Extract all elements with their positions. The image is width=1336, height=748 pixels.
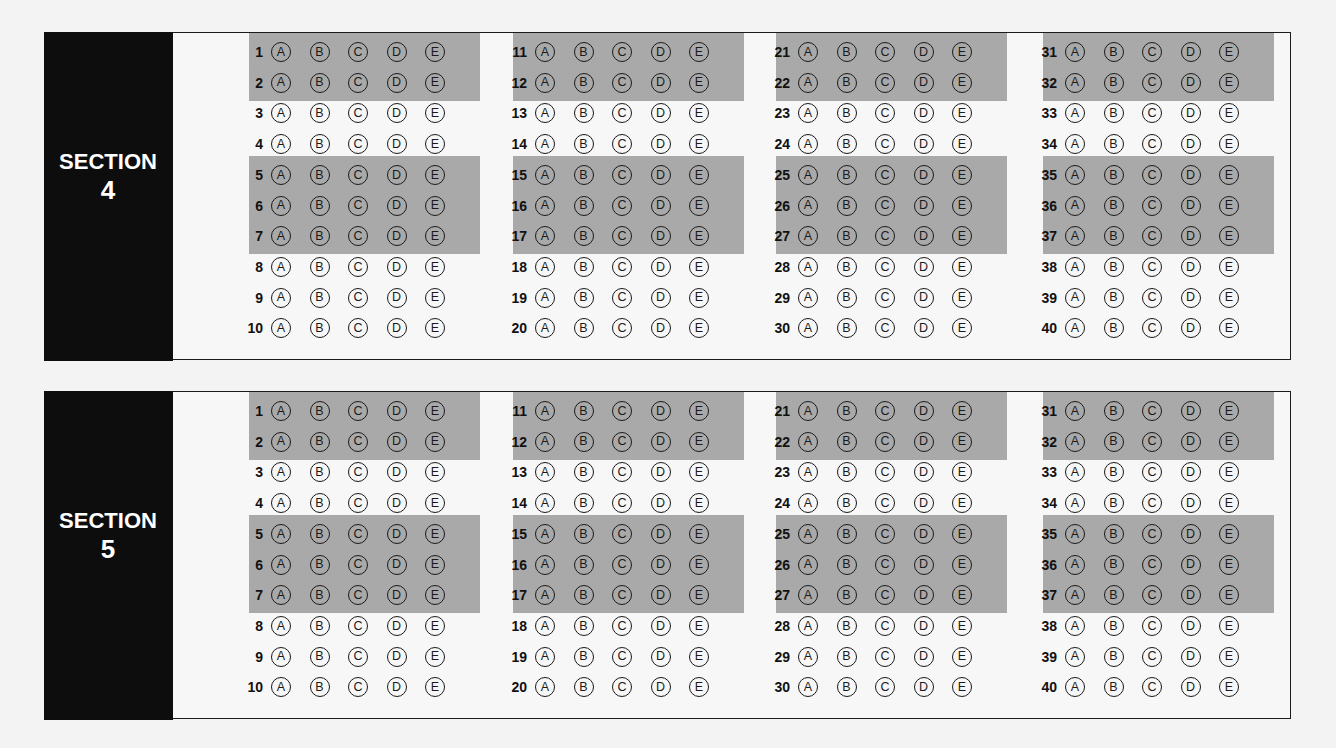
answer-bubble-d[interactable]: D — [1181, 288, 1201, 308]
answer-bubble-c[interactable]: C — [875, 647, 895, 667]
answer-bubble-c[interactable]: C — [1142, 401, 1162, 421]
answer-bubble-c[interactable]: C — [348, 165, 368, 185]
answer-bubble-b[interactable]: B — [1104, 165, 1124, 185]
answer-bubble-d[interactable]: D — [914, 318, 934, 338]
answer-bubble-e[interactable]: E — [689, 555, 709, 575]
answer-bubble-d[interactable]: D — [387, 288, 407, 308]
answer-bubble-a[interactable]: A — [798, 524, 818, 544]
answer-bubble-c[interactable]: C — [875, 165, 895, 185]
answer-bubble-a[interactable]: A — [535, 165, 555, 185]
answer-bubble-b[interactable]: B — [310, 73, 330, 93]
answer-bubble-e[interactable]: E — [1219, 524, 1239, 544]
answer-bubble-e[interactable]: E — [1219, 42, 1239, 62]
answer-bubble-d[interactable]: D — [387, 647, 407, 667]
answer-bubble-e[interactable]: E — [425, 73, 445, 93]
answer-bubble-c[interactable]: C — [875, 196, 895, 216]
answer-bubble-c[interactable]: C — [348, 462, 368, 482]
answer-bubble-c[interactable]: C — [875, 257, 895, 277]
answer-bubble-b[interactable]: B — [1104, 134, 1124, 154]
answer-bubble-e[interactable]: E — [425, 677, 445, 697]
answer-bubble-e[interactable]: E — [1219, 677, 1239, 697]
answer-bubble-b[interactable]: B — [837, 288, 857, 308]
answer-bubble-c[interactable]: C — [348, 585, 368, 605]
answer-bubble-a[interactable]: A — [1065, 647, 1085, 667]
answer-bubble-a[interactable]: A — [1065, 677, 1085, 697]
answer-bubble-d[interactable]: D — [914, 288, 934, 308]
answer-bubble-a[interactable]: A — [1065, 616, 1085, 636]
answer-bubble-b[interactable]: B — [310, 318, 330, 338]
answer-bubble-d[interactable]: D — [387, 555, 407, 575]
answer-bubble-e[interactable]: E — [425, 288, 445, 308]
answer-bubble-b[interactable]: B — [837, 226, 857, 246]
answer-bubble-e[interactable]: E — [952, 585, 972, 605]
answer-bubble-c[interactable]: C — [1142, 196, 1162, 216]
answer-bubble-c[interactable]: C — [875, 73, 895, 93]
answer-bubble-e[interactable]: E — [1219, 103, 1239, 123]
answer-bubble-e[interactable]: E — [1219, 616, 1239, 636]
answer-bubble-e[interactable]: E — [952, 288, 972, 308]
answer-bubble-c[interactable]: C — [348, 677, 368, 697]
answer-bubble-b[interactable]: B — [574, 42, 594, 62]
answer-bubble-c[interactable]: C — [348, 288, 368, 308]
answer-bubble-b[interactable]: B — [1104, 677, 1124, 697]
answer-bubble-d[interactable]: D — [914, 226, 934, 246]
answer-bubble-e[interactable]: E — [425, 432, 445, 452]
answer-bubble-d[interactable]: D — [914, 401, 934, 421]
answer-bubble-c[interactable]: C — [1142, 555, 1162, 575]
answer-bubble-b[interactable]: B — [837, 524, 857, 544]
answer-bubble-b[interactable]: B — [1104, 401, 1124, 421]
answer-bubble-e[interactable]: E — [425, 555, 445, 575]
answer-bubble-a[interactable]: A — [798, 555, 818, 575]
answer-bubble-b[interactable]: B — [1104, 432, 1124, 452]
answer-bubble-e[interactable]: E — [1219, 647, 1239, 667]
answer-bubble-b[interactable]: B — [1104, 103, 1124, 123]
answer-bubble-c[interactable]: C — [348, 226, 368, 246]
answer-bubble-e[interactable]: E — [1219, 432, 1239, 452]
answer-bubble-c[interactable]: C — [348, 103, 368, 123]
answer-bubble-a[interactable]: A — [798, 616, 818, 636]
answer-bubble-a[interactable]: A — [1065, 73, 1085, 93]
answer-bubble-e[interactable]: E — [1219, 555, 1239, 575]
answer-bubble-e[interactable]: E — [689, 616, 709, 636]
answer-bubble-e[interactable]: E — [689, 585, 709, 605]
answer-bubble-e[interactable]: E — [689, 73, 709, 93]
answer-bubble-e[interactable]: E — [952, 401, 972, 421]
answer-bubble-a[interactable]: A — [1065, 462, 1085, 482]
answer-bubble-b[interactable]: B — [837, 493, 857, 513]
answer-bubble-d[interactable]: D — [651, 288, 671, 308]
answer-bubble-b[interactable]: B — [574, 401, 594, 421]
answer-bubble-b[interactable]: B — [574, 103, 594, 123]
answer-bubble-c[interactable]: C — [875, 677, 895, 697]
answer-bubble-a[interactable]: A — [535, 318, 555, 338]
answer-bubble-e[interactable]: E — [689, 165, 709, 185]
answer-bubble-a[interactable]: A — [798, 196, 818, 216]
answer-bubble-a[interactable]: A — [798, 103, 818, 123]
answer-bubble-e[interactable]: E — [1219, 401, 1239, 421]
answer-bubble-b[interactable]: B — [837, 257, 857, 277]
answer-bubble-c[interactable]: C — [875, 288, 895, 308]
answer-bubble-c[interactable]: C — [348, 616, 368, 636]
answer-bubble-c[interactable]: C — [612, 165, 632, 185]
answer-bubble-b[interactable]: B — [1104, 555, 1124, 575]
answer-bubble-a[interactable]: A — [271, 585, 291, 605]
answer-bubble-b[interactable]: B — [837, 677, 857, 697]
answer-bubble-b[interactable]: B — [574, 493, 594, 513]
answer-bubble-b[interactable]: B — [837, 555, 857, 575]
answer-bubble-b[interactable]: B — [310, 616, 330, 636]
answer-bubble-a[interactable]: A — [535, 134, 555, 154]
answer-bubble-b[interactable]: B — [310, 555, 330, 575]
answer-bubble-e[interactable]: E — [425, 524, 445, 544]
answer-bubble-a[interactable]: A — [271, 493, 291, 513]
answer-bubble-e[interactable]: E — [952, 73, 972, 93]
answer-bubble-c[interactable]: C — [348, 647, 368, 667]
answer-bubble-a[interactable]: A — [271, 555, 291, 575]
answer-bubble-b[interactable]: B — [310, 401, 330, 421]
answer-bubble-b[interactable]: B — [1104, 42, 1124, 62]
answer-bubble-c[interactable]: C — [612, 462, 632, 482]
answer-bubble-a[interactable]: A — [798, 73, 818, 93]
answer-bubble-e[interactable]: E — [689, 288, 709, 308]
answer-bubble-d[interactable]: D — [387, 432, 407, 452]
answer-bubble-a[interactable]: A — [798, 226, 818, 246]
answer-bubble-e[interactable]: E — [425, 165, 445, 185]
answer-bubble-c[interactable]: C — [875, 226, 895, 246]
